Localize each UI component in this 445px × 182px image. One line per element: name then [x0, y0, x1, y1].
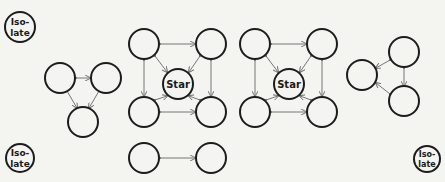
isolate-label: late: [418, 160, 436, 169]
member-node: [196, 97, 226, 127]
member-node: [240, 97, 270, 127]
member-node: [45, 63, 75, 93]
isolate-label: late: [10, 28, 30, 38]
member-node: [91, 63, 121, 93]
isolate-label: Iso-: [419, 150, 436, 159]
member-node: [196, 29, 226, 59]
sociogram-diagram: Star Star Iso- late Iso- late Iso- late: [0, 0, 445, 182]
member-node: [129, 143, 159, 173]
member-node: [68, 107, 98, 137]
star-label: Star: [166, 79, 190, 90]
isolate-label: Iso-: [11, 148, 30, 158]
isolate-label: late: [10, 159, 30, 169]
member-node: [307, 97, 337, 127]
member-node: [389, 37, 419, 67]
member-node: [129, 97, 159, 127]
star-label: Star: [277, 79, 301, 90]
member-node: [307, 29, 337, 59]
relationship-arrows: [67, 44, 404, 158]
member-node: [389, 86, 419, 116]
member-node: [196, 143, 226, 173]
member-nodes: [5, 12, 440, 173]
member-node: [347, 60, 377, 90]
member-node: [240, 29, 270, 59]
member-node: [129, 29, 159, 59]
isolate-label: Iso-: [11, 17, 30, 27]
